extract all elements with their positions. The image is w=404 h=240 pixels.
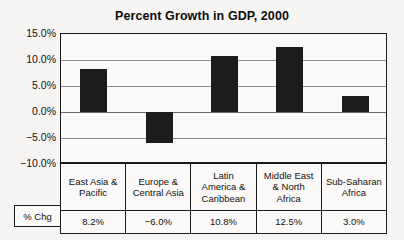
plot-area: [60, 33, 387, 163]
table-value-cell-1: −6.0%: [126, 211, 191, 234]
bar-0: [80, 69, 107, 112]
gridline-00: [61, 112, 386, 113]
table-row-label: % Chg: [14, 205, 61, 227]
y-tick-label-5: −10.0%: [2, 157, 56, 169]
table-row: 8.2%−6.0%10.8%12.5%3.0%: [61, 211, 387, 234]
data-table: East Asia &PacificEurope &Central AsiaLa…: [60, 163, 387, 234]
y-tick-label-0: 15.0%: [2, 27, 56, 39]
table-header-cell-0: East Asia &Pacific: [61, 164, 126, 211]
gridline-50: [61, 138, 386, 139]
page-title: Percent Growth in GDP, 2000: [0, 9, 404, 23]
bar-3: [276, 47, 303, 112]
bar-2: [211, 56, 238, 112]
table-value-cell-2: 10.8%: [191, 211, 256, 234]
y-tick-label-1: 10.0%: [2, 53, 56, 65]
table-header-cell-3: Middle East& NorthAfrica: [256, 164, 321, 211]
table-header-cell-4: Sub-SaharanAfrica: [321, 164, 386, 211]
gdp-growth-figure: Percent Growth in GDP, 2000 15.0%10.0%5.…: [0, 0, 404, 240]
bar-1: [146, 112, 173, 143]
y-tick-label-2: 5.0%: [2, 79, 56, 91]
table-value-cell-3: 12.5%: [256, 211, 321, 234]
y-tick-label-3: 0.0%: [2, 105, 56, 117]
table-header-row: East Asia &PacificEurope &Central AsiaLa…: [61, 164, 387, 211]
table-header-cell-1: Europe &Central Asia: [126, 164, 191, 211]
y-axis: 15.0%10.0%5.0%0.0%−5.0%−10.0%: [0, 33, 56, 163]
bar-4: [342, 96, 369, 112]
table-header-cell-2: LatinAmerica &Caribbean: [191, 164, 256, 211]
y-tick-label-4: −5.0%: [2, 131, 56, 143]
table-value-cell-0: 8.2%: [61, 211, 126, 234]
table-value-cell-4: 3.0%: [321, 211, 386, 234]
